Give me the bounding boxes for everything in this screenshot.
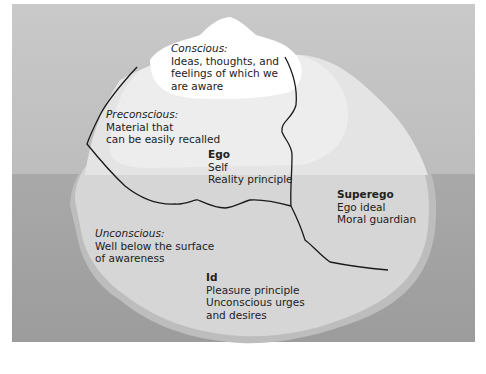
- unconscious-label: Unconscious: Well below the surface of a…: [95, 227, 214, 265]
- superego-line: Ego ideal: [337, 201, 416, 214]
- preconscious-line: Material that: [106, 121, 220, 134]
- ego-title: Ego: [208, 148, 293, 161]
- preconscious-title: Preconscious:: [106, 108, 220, 121]
- unconscious-line: Well below the surface: [95, 240, 214, 253]
- conscious-line: Ideas, thoughts, and: [171, 55, 279, 68]
- superego-title: Superego: [337, 188, 416, 201]
- superego-label: Superego Ego ideal Moral guardian: [337, 188, 416, 226]
- id-label: Id Pleasure principle Unconscious urges …: [206, 271, 305, 321]
- preconscious-line: can be easily recalled: [106, 133, 220, 146]
- ego-label: Ego Self Reality principle: [208, 148, 293, 186]
- preconscious-label: Preconscious: Material that can be easil…: [106, 108, 220, 146]
- id-title: Id: [206, 271, 305, 284]
- conscious-line: are aware: [171, 80, 279, 93]
- unconscious-line: of awareness: [95, 252, 214, 265]
- ego-line: Self: [208, 161, 293, 174]
- conscious-title: Conscious:: [171, 42, 279, 55]
- id-line: Pleasure principle: [206, 284, 305, 297]
- id-line: Unconscious urges: [206, 296, 305, 309]
- ego-line: Reality principle: [208, 173, 293, 186]
- conscious-label: Conscious: Ideas, thoughts, and feelings…: [171, 42, 279, 92]
- id-line: and desires: [206, 309, 305, 322]
- unconscious-title: Unconscious:: [95, 227, 214, 240]
- superego-line: Moral guardian: [337, 213, 416, 226]
- conscious-line: feelings of which we: [171, 67, 279, 80]
